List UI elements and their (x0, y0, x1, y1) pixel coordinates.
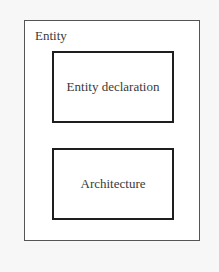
architecture-label: Architecture (81, 176, 146, 192)
entity-declaration-label: Entity declaration (67, 79, 160, 95)
architecture-block: Architecture (52, 148, 174, 220)
entity-container: Entity Entity declaration Architecture (24, 20, 200, 241)
entity-label: Entity (35, 28, 67, 44)
entity-declaration-block: Entity declaration (52, 51, 174, 123)
